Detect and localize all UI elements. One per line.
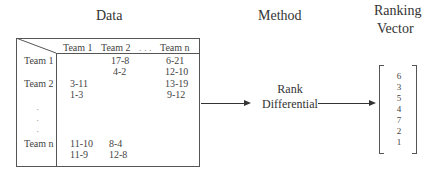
table-cell: 9-12 [167, 89, 185, 100]
table-cell: 11-10 [70, 138, 93, 149]
data-title: Data [96, 8, 122, 24]
vector-entry: 4 [390, 104, 408, 115]
method-label-line2: Differential [252, 97, 328, 112]
row-label-team-2: Team 2 [24, 78, 54, 89]
row-ellipsis: · [36, 126, 39, 137]
arrow-data-to-method [201, 103, 245, 104]
table-cell: 17-8 [111, 55, 129, 66]
right-bracket [412, 65, 417, 154]
column-header-team-1: Team 1 [63, 42, 93, 53]
method-title: Method [258, 8, 302, 24]
row-label-team-1: Team 1 [24, 55, 54, 66]
table-cell: 8-4 [109, 138, 122, 149]
vector-entry: 7 [390, 115, 408, 126]
arrow-head-icon [244, 100, 251, 106]
row-ellipsis: · [36, 104, 39, 115]
column-header-team-n: Team n [160, 42, 190, 53]
corner-diagonal [16, 38, 58, 55]
vector-entry: 2 [390, 126, 408, 137]
table-cell: 1-3 [70, 89, 83, 100]
header-divider [56, 53, 200, 54]
table-cell: 13-19 [165, 78, 188, 89]
left-bracket [379, 65, 384, 154]
row-label-divider [56, 53, 57, 167]
column-header-team-2: Team 2 [101, 42, 131, 53]
ranking-vector-title-line2: Vector [377, 21, 414, 37]
table-cell: 12-8 [109, 149, 127, 160]
vector-entry: 5 [390, 93, 408, 104]
row-label-team-n: Team n [24, 138, 54, 149]
method-label-line1: Rank [255, 82, 325, 97]
vector-entry: 3 [390, 82, 408, 93]
arrow-method-to-vector [318, 103, 370, 104]
ranking-vector-title-line1: Ranking [374, 3, 421, 19]
vector-entry: 1 [390, 137, 408, 148]
vector-entry: 6 [390, 71, 408, 82]
arrow-head-icon [369, 100, 376, 106]
row-ellipsis: · [36, 115, 39, 126]
table-cell: 4-2 [113, 66, 126, 77]
column-header-ellipsis: . . . [139, 42, 152, 53]
table-cell: 11-9 [70, 149, 88, 160]
table-cell: 3-11 [70, 78, 88, 89]
table-cell: 12-10 [165, 66, 188, 77]
table-cell: 6-21 [166, 55, 184, 66]
